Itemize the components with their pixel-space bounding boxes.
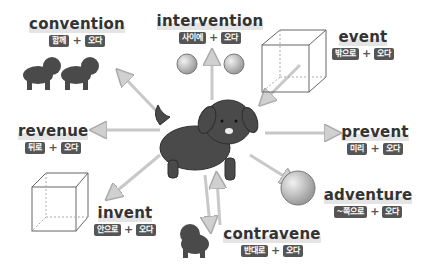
word-title: contravene bbox=[223, 226, 320, 243]
prefix-chip: 함께 bbox=[49, 35, 69, 47]
word-title: adventure bbox=[324, 187, 413, 204]
dog-icon bbox=[23, 57, 99, 90]
word-adventure: adventure ~쪽으로+오다 bbox=[318, 185, 418, 218]
word-intervention: intervention 사이에+오다 bbox=[155, 11, 265, 44]
word-convention: convention 함께+오다 bbox=[22, 14, 132, 47]
word-title: event bbox=[339, 29, 388, 46]
word-title: revenue bbox=[18, 123, 88, 140]
prefix-chip: 미리 bbox=[347, 143, 367, 155]
ball-icon bbox=[224, 54, 244, 74]
word-invent: invent 안으로+오다 bbox=[85, 203, 165, 236]
word-title: intervention bbox=[157, 13, 264, 30]
word-event: event 밖으로+오다 bbox=[328, 27, 398, 60]
prefix-chip: 사이에 bbox=[179, 32, 206, 44]
prefix-chip: 밖으로 bbox=[332, 48, 359, 60]
root-chip: 오다 bbox=[61, 142, 81, 154]
word-title: prevent bbox=[341, 124, 409, 141]
root-chip: 오다 bbox=[374, 48, 394, 60]
prefix-chip: 뒤로 bbox=[25, 142, 45, 154]
dog-icon bbox=[155, 100, 261, 180]
root-chip: 오다 bbox=[382, 206, 402, 218]
root-chip: 오다 bbox=[85, 35, 105, 47]
root-chip: 오다 bbox=[221, 32, 241, 44]
cube-icon bbox=[32, 173, 88, 231]
ball-icon bbox=[281, 171, 315, 205]
vocabulary-diagram: convention 함께+오다 intervention 사이에+오다 eve… bbox=[0, 0, 424, 273]
root-chip: 오다 bbox=[283, 245, 303, 257]
prefix-chip: ~쪽으로 bbox=[334, 206, 368, 218]
word-title: convention bbox=[29, 16, 125, 33]
root-chip: 오다 bbox=[383, 143, 403, 155]
prefix-chip: 안으로 bbox=[94, 224, 121, 236]
root-chip: 오다 bbox=[136, 224, 156, 236]
word-prevent: prevent 미리+오다 bbox=[340, 122, 410, 155]
word-title: invent bbox=[98, 205, 153, 222]
ball-icon bbox=[177, 54, 197, 74]
cube-icon bbox=[262, 30, 326, 92]
word-contravene: contravene 반대로+오다 bbox=[222, 224, 322, 257]
word-revenue: revenue 뒤로+오다 bbox=[18, 121, 88, 154]
dog-icon bbox=[180, 224, 209, 258]
prefix-chip: 반대로 bbox=[241, 245, 268, 257]
